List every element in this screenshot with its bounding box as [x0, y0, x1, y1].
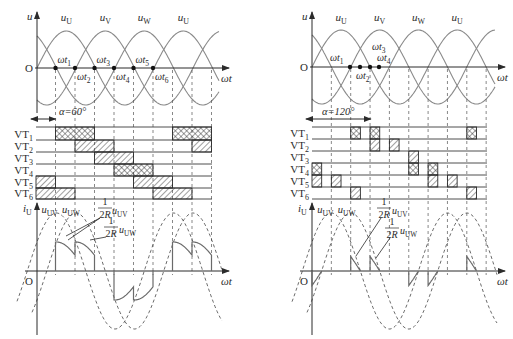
fraction-numerator: 1: [390, 216, 395, 227]
firing-point-label-6: ωt6: [155, 71, 169, 85]
phase-current-plot: iUOωtuUVuUW12RuUV12RuUW: [17, 196, 233, 335]
leader-line: [68, 218, 100, 240]
vt4-conduction-crosshatch-block: [428, 163, 438, 175]
u-axis-label: u: [302, 10, 308, 22]
wt-axis-label: ωt: [497, 71, 509, 83]
firing-point-label-1: ωt1: [58, 54, 72, 68]
current-wt-axis-label: ωt: [221, 275, 233, 287]
panel-alpha-120: uOωtuUuVuWuUωt1ωt2ωt3ωt4α=120°VT1VT2VT3V…: [290, 10, 508, 335]
firing-point-label-2: ωt2: [356, 70, 370, 84]
vt2-conduction-hatch-block: [192, 140, 212, 152]
vt4-conduction-crosshatch-block: [114, 164, 153, 176]
firing-point-dot: [348, 65, 352, 69]
firing-point-dot: [112, 66, 116, 70]
firing-point-label-4: ωt4: [377, 52, 391, 66]
wave-label-uw: uW: [138, 11, 152, 26]
leader-line: [356, 218, 381, 256]
alpha-indicator: α=120°: [306, 106, 371, 119]
vt5-conduction-hatch-block: [331, 175, 341, 187]
vt6-conduction-hatch-block: [351, 187, 361, 199]
thyristor-conduction-chart: VT1VT2VT3VT4VT5VT6: [14, 127, 212, 202]
firing-point-dot: [131, 66, 135, 70]
firing-point-dot: [358, 65, 362, 69]
firing-point-label-5: ωt5: [136, 54, 150, 68]
fraction-numerator: 1: [382, 196, 387, 207]
iu-axis-label: iU: [23, 202, 32, 217]
vt3-conduction-hatch-block: [409, 151, 419, 163]
vt5-conduction-hatch-block: [447, 175, 457, 187]
wave-label-uu: uU: [452, 11, 464, 26]
vt1-conduction-crosshatch-block: [173, 127, 212, 140]
wave-label-uu: uU: [335, 11, 347, 26]
alpha-label: α=120°: [322, 106, 355, 117]
vt6-conduction-hatch-block: [36, 188, 75, 199]
phase-voltage-plot: uOωtuUuVuWuUωt1ωt2ωt3ωt4ωt5ωt6: [25, 10, 233, 113]
vt5-conduction-hatch-block: [312, 175, 322, 187]
alpha-indicator: α=60°: [31, 106, 87, 119]
wave-label-uv: uV: [100, 11, 112, 26]
wave-label-uw: uW: [412, 11, 426, 26]
leader-line: [376, 238, 390, 258]
vt4-conduction-crosshatch-block: [312, 163, 322, 175]
iu-axis-label: iU: [298, 202, 307, 217]
current-wt-axis-label: ωt: [497, 275, 509, 287]
firing-point-label-4: ωt4: [116, 71, 130, 85]
wt-axis-label: ωt: [221, 72, 233, 84]
vt2-conduction-hatch-block: [389, 139, 399, 151]
firing-point-label-2: ωt2: [77, 71, 91, 85]
vt1-conduction-crosshatch-block: [351, 127, 361, 139]
phase-voltage-plot: uOωtuUuVuWuUωt1ωt2ωt3ωt4: [300, 10, 509, 112]
fraction-denominator: 2R: [378, 209, 389, 220]
current-annotations: 12RuUV12RuUW: [356, 196, 417, 258]
alpha-label: α=60°: [59, 106, 87, 117]
u-axis-label: u: [27, 10, 33, 22]
wave-label-uv: uV: [374, 11, 386, 26]
vt2-conduction-hatch-block: [75, 140, 114, 152]
wave-label-uu: uU: [61, 11, 73, 26]
leader-line: [90, 237, 106, 240]
annotation-signal-uuv: uUV: [112, 205, 128, 219]
vt4-conduction-crosshatch-block: [409, 163, 419, 175]
fraction-denominator: 2R: [105, 228, 116, 239]
fraction-numerator: 1: [103, 196, 108, 207]
vt1-conduction-crosshatch-block: [56, 127, 95, 140]
vt5-conduction-hatch-block: [36, 176, 56, 188]
firing-point-dot: [368, 65, 372, 69]
firing-point-dot: [92, 66, 96, 70]
wave-label-uu: uU: [178, 11, 190, 26]
firing-point-dot: [377, 65, 381, 69]
vt5-conduction-hatch-block: [134, 176, 173, 188]
current-annotations: 12RuUV12RuUW: [66, 196, 136, 240]
firing-point-label-1: ωt1: [330, 52, 344, 66]
firing-point-label-3: ωt3: [97, 54, 111, 68]
leader-line: [66, 218, 100, 236]
vt1-conduction-crosshatch-block: [467, 127, 477, 139]
u-uw-label: uUW: [338, 204, 357, 218]
fraction-denominator: 2R: [386, 229, 397, 240]
firing-points: ωt1ωt2ωt3ωt4ωt5ωt6: [53, 54, 169, 85]
vt3-conduction-hatch-block: [95, 152, 134, 164]
three-phase-rectifier-waveform-diagram: uOωtuUuVuWuUωt1ωt2ωt3ωt4ωt5ωt6α=60°VT1VT…: [0, 0, 513, 339]
origin-label: O: [300, 61, 308, 73]
u-uv-label: uUV: [317, 204, 334, 218]
firing-point-dot: [73, 66, 77, 70]
firing-point-dot: [151, 66, 155, 70]
thyristor-conduction-chart: VT1VT2VT3VT4VT5VT6: [290, 127, 487, 202]
firing-point-dot: [53, 66, 57, 70]
u-uv-label: uUV: [41, 204, 58, 218]
fraction-numerator: 1: [109, 215, 114, 226]
vt6-conduction-hatch-block: [153, 188, 192, 199]
origin-label: O: [25, 62, 33, 74]
phase-current-plot: iUOωtuUVuUW12RuUV12RuUW: [292, 196, 509, 335]
current-origin-label: O: [25, 275, 33, 287]
current-origin-label: O: [300, 275, 308, 287]
vt2-conduction-hatch-block: [370, 139, 380, 151]
vt1-conduction-crosshatch-block: [370, 127, 380, 139]
panel-alpha-60: uOωtuUuVuWuUωt1ωt2ωt3ωt4ωt5ωt6α=60°VT1VT…: [14, 10, 232, 335]
u-uw-label: uUW: [62, 204, 81, 218]
vt6-conduction-hatch-block: [467, 187, 477, 199]
vt5-conduction-hatch-block: [428, 175, 438, 187]
